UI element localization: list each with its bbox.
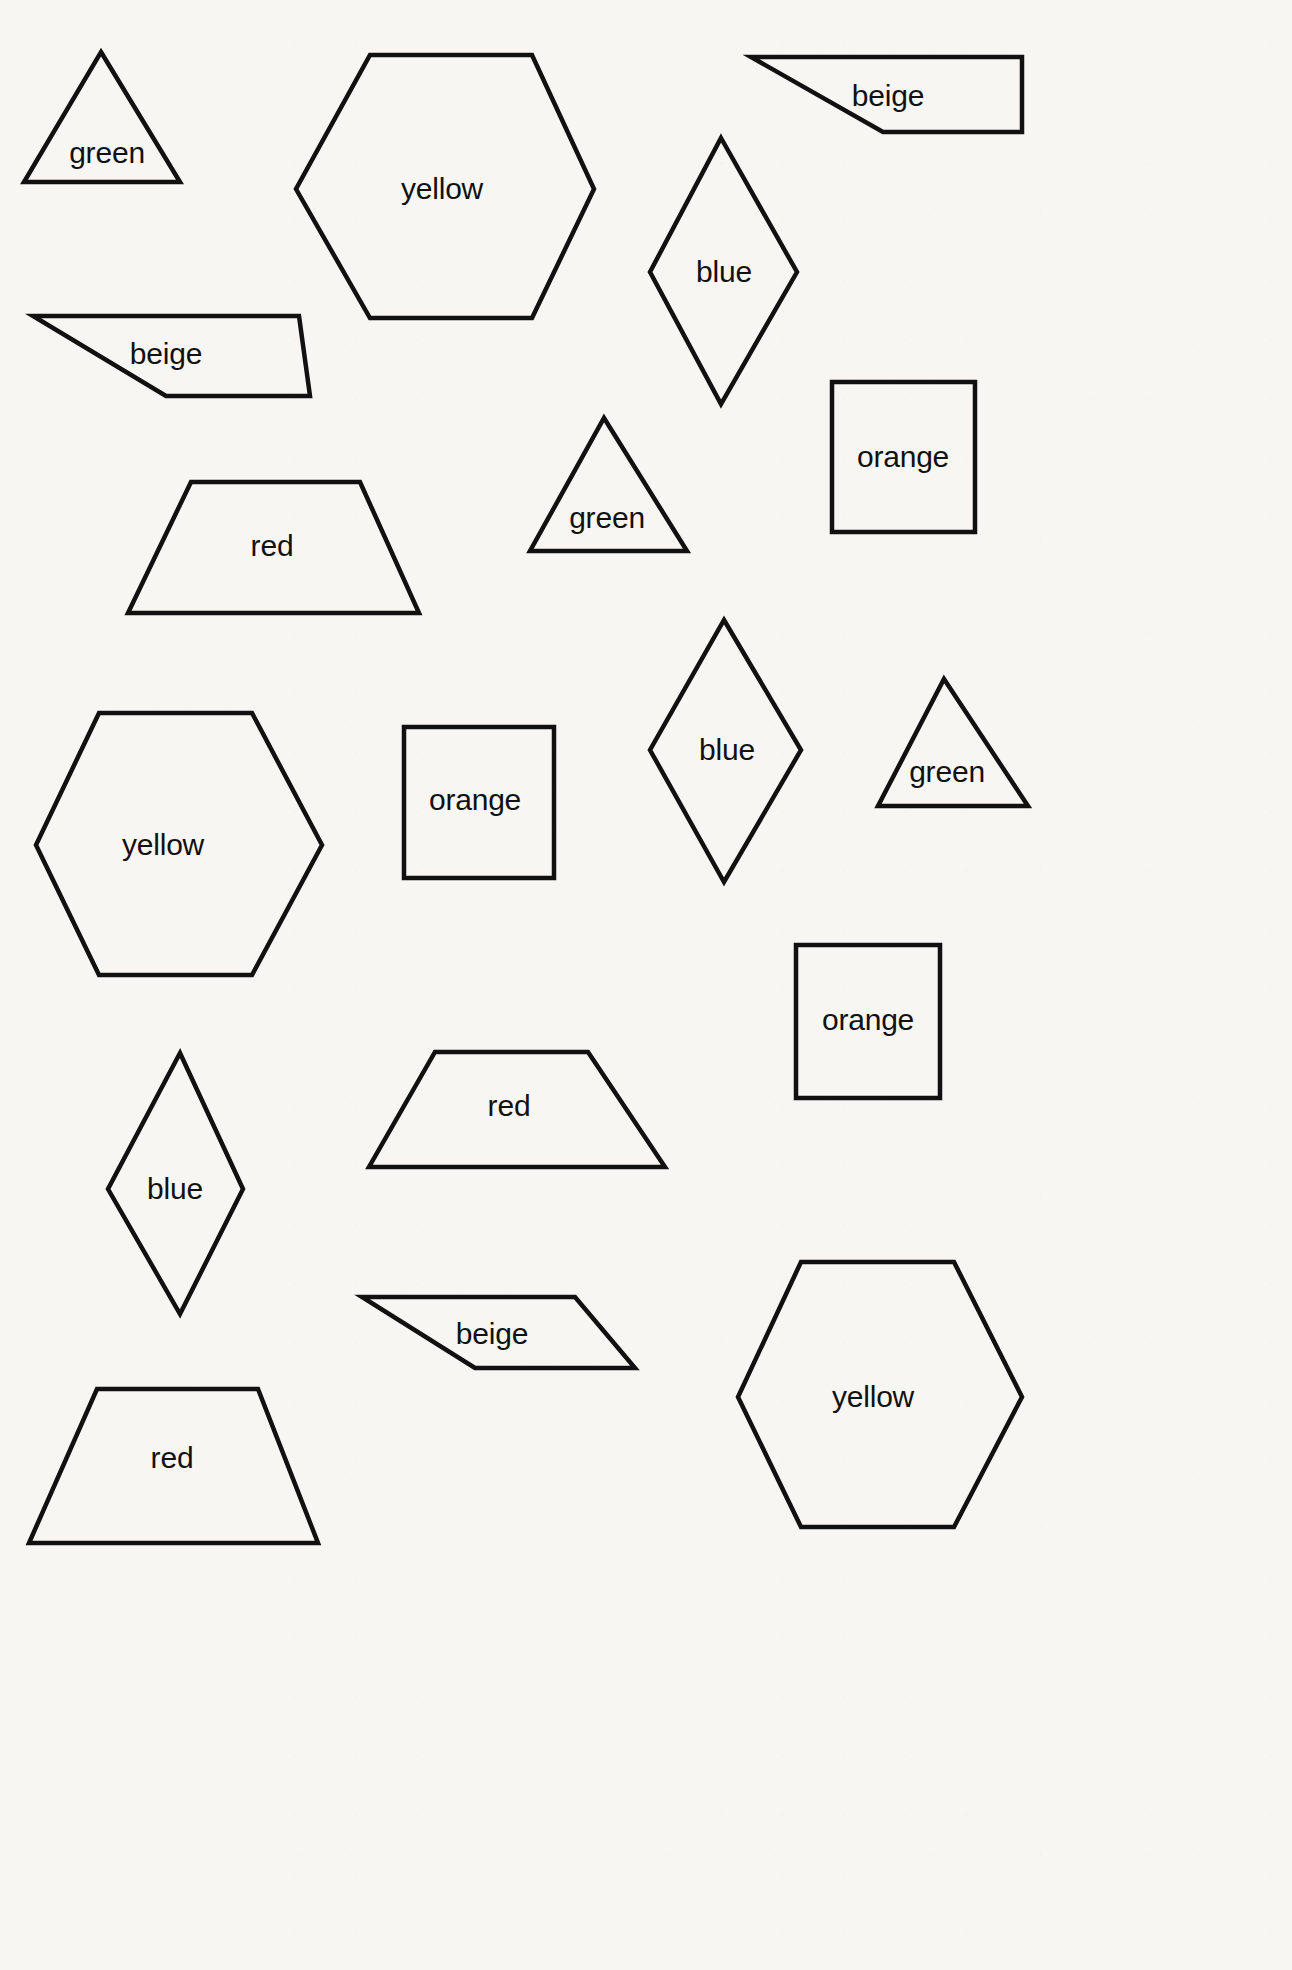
square-orange-1-label: orange <box>857 442 949 472</box>
trapezoid-red-3-label: red <box>151 1443 194 1473</box>
triangle-green-2-label: green <box>569 503 645 533</box>
hexagon-yellow-3-label: yellow <box>832 1382 914 1412</box>
trapezoid-red-1-label: red <box>251 531 294 561</box>
shapes-canvas <box>0 0 1292 1970</box>
rhombus-blue-1-label: blue <box>696 257 752 287</box>
square-orange-3-label: orange <box>822 1005 914 1035</box>
trapezoid-red-2-label: red <box>488 1091 531 1121</box>
parallelogram-beige-3-label: beige <box>456 1319 528 1349</box>
rhombus-blue-3-label: blue <box>147 1174 203 1204</box>
triangle-green-3-label: green <box>909 757 985 787</box>
square-orange-2-label: orange <box>429 785 521 815</box>
hexagon-yellow-1-label: yellow <box>401 174 483 204</box>
parallelogram-beige-2-label: beige <box>130 339 202 369</box>
triangle-green-1-label: green <box>69 138 145 168</box>
hexagon-yellow-2-label: yellow <box>122 830 204 860</box>
shapes-worksheet-page: greenyellowbeigebluebeigeorangeredgreeny… <box>0 0 1292 1970</box>
rhombus-blue-2-label: blue <box>699 735 755 765</box>
parallelogram-beige-1-label: beige <box>852 81 924 111</box>
